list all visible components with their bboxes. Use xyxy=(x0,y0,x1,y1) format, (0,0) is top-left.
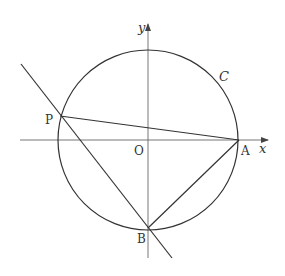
circle-c-label: C xyxy=(219,69,229,84)
point-b-label: B xyxy=(137,232,146,246)
segment-ab xyxy=(148,140,239,228)
point-p-label: P xyxy=(45,113,53,127)
diagram-canvas: y x O C P A B xyxy=(0,0,285,276)
point-a-label: A xyxy=(240,144,250,158)
y-axis-label: y xyxy=(137,20,146,35)
geometry-figure: y x O C P A B xyxy=(0,0,285,276)
x-axis-label: x xyxy=(259,141,267,156)
origin-label: O xyxy=(134,144,144,158)
segment-pa xyxy=(60,116,239,140)
line-pb xyxy=(21,64,172,258)
